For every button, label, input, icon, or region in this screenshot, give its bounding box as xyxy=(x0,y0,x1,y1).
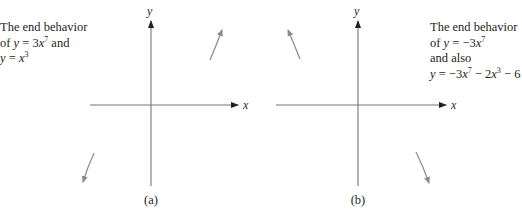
caption-text: of xyxy=(430,36,444,50)
caption-line: y = −3x7 − 2x3 − 6 xyxy=(430,67,520,83)
caption-text: and also xyxy=(430,51,471,65)
caption-text: − 2 xyxy=(472,67,492,81)
caption-line: and also xyxy=(430,51,520,67)
y-axis-label-b: y xyxy=(353,4,360,18)
caption-text: = −3 xyxy=(436,67,463,81)
caption-b: The end behaviorof y = −3x7and alsoy = −… xyxy=(430,20,520,82)
caption-text: The end behavior xyxy=(0,20,87,34)
end-behavior-arrow-left-up-b xyxy=(288,30,300,59)
caption-text: − 6 xyxy=(501,67,521,81)
x-axis-label-a: x xyxy=(242,98,249,112)
y-axis-label-a: y xyxy=(146,4,153,18)
end-behavior-arrow-right-up-a xyxy=(210,30,222,60)
caption-line: of y = 3x7 and xyxy=(0,36,87,52)
caption-line: The end behavior xyxy=(0,20,87,36)
caption-text: The end behavior xyxy=(430,20,517,34)
exponent: 7 xyxy=(481,35,485,44)
caption-text: = −3 xyxy=(449,36,476,50)
caption-text: of xyxy=(0,36,14,50)
panel-a: x y (a) xyxy=(83,4,249,207)
caption-text: = 3 xyxy=(19,36,39,50)
caption-line: The end behavior xyxy=(430,20,520,36)
caption-line: of y = −3x7 xyxy=(430,36,520,52)
exponent: 3 xyxy=(24,50,28,59)
end-behavior-arrow-left-down-a xyxy=(83,153,94,182)
caption-line: y = x3 xyxy=(0,51,87,67)
panel-label-a: (a) xyxy=(144,193,158,207)
end-behavior-arrow-right-down-b xyxy=(416,152,429,183)
x-axis-label-b: x xyxy=(450,98,457,112)
caption-text: = xyxy=(6,51,19,65)
caption-text: and xyxy=(48,36,69,50)
caption-a: The end behaviorof y = 3x7 andy = x3 xyxy=(0,20,87,67)
panel-label-b: (b) xyxy=(351,193,366,207)
